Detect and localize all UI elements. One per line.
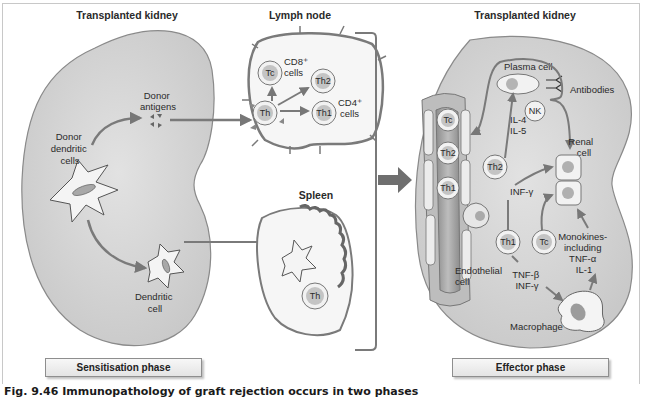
svg-text:Th2: Th2 — [487, 162, 503, 172]
svg-text:Th1: Th1 — [316, 108, 332, 118]
lymph-th2-cell: Th2 — [311, 69, 335, 93]
figure-caption: Fig. 9.46 Immunopathology of graft rejec… — [4, 385, 418, 397]
spleen-title: Spleen — [299, 189, 333, 201]
svg-text:Tc: Tc — [540, 237, 550, 247]
svg-text:Tc: Tc — [444, 115, 454, 125]
svg-text:Tc: Tc — [266, 68, 276, 78]
il-label: IL-4 IL-5 — [510, 114, 529, 136]
phase-transition-arrow-icon — [378, 167, 412, 193]
effector-phase-label: Effector phase — [452, 358, 609, 377]
svg-text:Th1: Th1 — [440, 183, 456, 193]
sensitisation-phase-label: Sensitisation phase — [45, 358, 202, 377]
svg-text:Th: Th — [260, 108, 271, 118]
lymph-th1-cell: Th1 — [312, 101, 336, 125]
spleen-th-cell: Th — [302, 283, 328, 309]
right-kidney-title: Transplanted kidney — [474, 9, 576, 21]
migrating-cell-icon — [463, 203, 489, 228]
svg-text:Th2: Th2 — [315, 76, 331, 86]
tc-cell: Tc — [532, 230, 556, 254]
macrophage-label: Macrophage — [510, 321, 563, 332]
renal-cells — [556, 155, 581, 205]
svg-text:Th1: Th1 — [500, 237, 516, 247]
lymph-node — [242, 26, 386, 154]
th2-cell: Th2 — [483, 155, 507, 179]
lymph-tc-cell: Tc — [258, 61, 282, 85]
donor-antigens-label: Donor antigens — [140, 90, 176, 112]
plasma-cell — [497, 74, 539, 94]
spleen — [257, 205, 352, 335]
vessel-th2-cell: Th2 — [437, 142, 459, 164]
inf-gamma-label: INF-γ — [510, 186, 533, 197]
svg-text:NK: NK — [529, 106, 542, 116]
left-kidney — [22, 31, 214, 346]
svg-text:Th2: Th2 — [440, 148, 456, 158]
th1-cell: Th1 — [496, 230, 520, 254]
vessel-tc-cell: Tc — [437, 109, 459, 131]
antibodies-label: Antibodies — [570, 84, 615, 95]
vessel-th1-cell: Th1 — [437, 177, 459, 199]
lymph-node-title: Lymph node — [269, 9, 331, 21]
graft-rejection-diagram: Transplanted kidney Donor dendritic cell… — [0, 0, 646, 397]
tnf-label: TNF-β INF-γ — [512, 269, 542, 291]
left-kidney-title: Transplanted kidney — [76, 9, 178, 21]
svg-text:Th: Th — [310, 291, 321, 301]
